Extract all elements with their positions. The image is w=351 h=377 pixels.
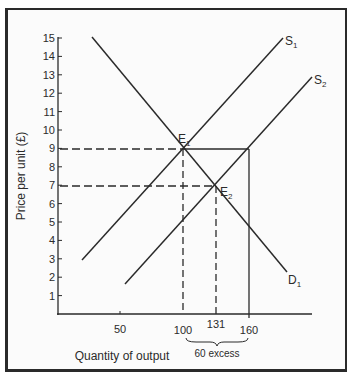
y-tick-label: 7 <box>49 179 55 191</box>
y-tick-label: 11 <box>44 106 55 118</box>
x-tick-label-160: 160 <box>240 324 258 336</box>
y-tick-label: 2 <box>49 271 55 283</box>
y-tick-label: 9 <box>49 142 55 154</box>
label-e2: E2 <box>220 185 233 201</box>
excess-label: 60 excess <box>194 348 239 359</box>
y-axis-title: Price per unit (£) <box>14 132 28 221</box>
y-tick-label: 15 <box>43 32 55 44</box>
reference-lines <box>60 149 249 318</box>
y-tick-label: 12 <box>43 87 55 99</box>
demand-curve-d1 <box>92 37 287 272</box>
y-tick-label: 14 <box>43 50 55 62</box>
y-tick-label: 8 <box>49 161 55 173</box>
x-tick-label-131: 131 <box>207 318 225 330</box>
x-axis-title: Quantity of output <box>75 349 170 363</box>
y-ticks <box>58 38 120 314</box>
label-d1: D1 <box>288 273 302 289</box>
x-tick-label-50: 50 <box>114 323 126 335</box>
y-tick-label: 4 <box>49 234 55 246</box>
y-tick-label: 13 <box>43 69 55 81</box>
y-tick-label: 6 <box>49 198 55 210</box>
y-tick-label: 3 <box>49 253 55 265</box>
x-tick-label-100: 100 <box>174 324 192 336</box>
label-s2: S2 <box>314 73 327 89</box>
y-tick-label: 5 <box>49 216 55 228</box>
supply-demand-chart: 1 2 3 4 5 6 7 8 9 10 11 12 13 14 15 Pric… <box>0 0 351 377</box>
label-s1: S1 <box>285 34 298 50</box>
y-tick-labels: 1 2 3 4 5 6 7 8 9 10 11 12 13 14 15 <box>43 32 55 302</box>
y-tick-label: 1 <box>49 290 55 302</box>
y-tick-label: 10 <box>43 124 55 136</box>
excess-brace <box>186 338 248 346</box>
label-e1: E1 <box>178 132 191 148</box>
